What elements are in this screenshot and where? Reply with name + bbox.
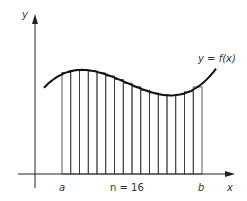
right-bound-label: b xyxy=(198,182,204,193)
riemann-rectangle xyxy=(150,93,159,174)
riemann-rectangle xyxy=(115,79,124,174)
riemann-rectangle xyxy=(106,76,115,174)
riemann-rectangle xyxy=(132,87,141,174)
riemann-rectangle xyxy=(97,73,106,174)
riemann-rectangle xyxy=(123,83,132,174)
riemann-rectangle xyxy=(158,95,167,174)
y-axis-label: y xyxy=(21,9,29,20)
riemann-rectangle xyxy=(176,94,185,174)
y-axis-arrow xyxy=(32,14,38,24)
riemann-rectangle xyxy=(62,72,71,174)
n-label: n = 16 xyxy=(110,182,144,193)
riemann-rectangle xyxy=(193,87,202,174)
riemann-rectangle xyxy=(167,95,176,174)
riemann-rectangle xyxy=(71,70,80,174)
riemann-rectangle xyxy=(80,70,89,174)
riemann-rectangle xyxy=(88,71,97,174)
left-bound-label: a xyxy=(59,182,65,193)
x-axis-label: x xyxy=(226,182,233,193)
curve-label: y = f(x) xyxy=(197,53,236,64)
riemann-rectangle xyxy=(185,92,194,174)
riemann-rectangle xyxy=(141,90,150,174)
riemann-sum-diagram: y x y = f(x) a b n = 16 xyxy=(0,0,247,201)
x-axis-arrow xyxy=(225,171,235,177)
